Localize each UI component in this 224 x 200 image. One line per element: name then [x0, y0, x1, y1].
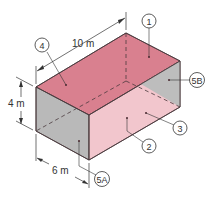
svg-text:1: 1	[146, 17, 151, 27]
callout-5a: 5A	[95, 172, 110, 187]
room-surface-diagram: 10 m 4 m 6 m	[0, 0, 224, 200]
svg-text:3: 3	[177, 124, 182, 134]
length-label: 10 m	[72, 38, 94, 49]
callout-4: 4	[35, 38, 49, 52]
height-label: 4 m	[8, 98, 25, 109]
width-label: 6 m	[52, 165, 69, 176]
callout-2: 2	[142, 139, 156, 153]
callout-1: 1	[142, 14, 156, 28]
svg-text:2: 2	[146, 142, 151, 152]
svg-text:5B: 5B	[191, 76, 202, 86]
svg-text:5A: 5A	[96, 175, 107, 185]
callout-3: 3	[173, 121, 187, 135]
svg-text:4: 4	[39, 41, 44, 51]
callout-5b: 5B	[190, 73, 205, 88]
